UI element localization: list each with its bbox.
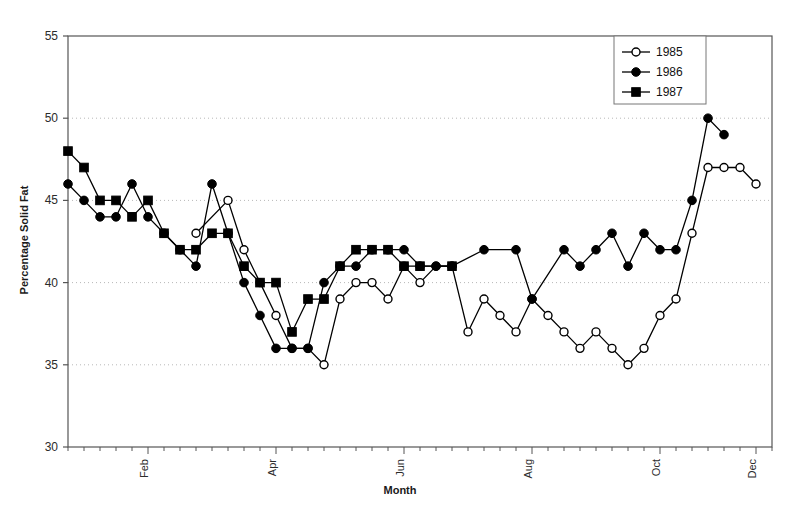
marker-filled-square (416, 262, 425, 271)
line-chart: 303540455055 FebAprJunAugOctDec 19851986… (0, 0, 798, 524)
legend-label-1987: 1987 (656, 85, 683, 99)
marker-filled-circle (560, 245, 569, 254)
marker-open-circle (320, 361, 328, 369)
y-tick-label: 40 (45, 276, 59, 290)
marker-filled-square (240, 262, 249, 271)
marker-filled-square (224, 229, 233, 238)
marker-open-circle (480, 295, 488, 303)
marker-filled-square (208, 229, 217, 238)
marker-open-circle (416, 279, 424, 287)
marker-filled-square (80, 163, 89, 172)
marker-filled-circle (304, 344, 313, 353)
marker-open-circle (624, 361, 632, 369)
marker-filled-square (632, 88, 641, 97)
marker-open-circle (656, 311, 664, 319)
x-tick-label-jun: Jun (394, 459, 406, 477)
chart-page: 303540455055 FebAprJunAugOctDec 19851986… (0, 0, 798, 524)
marker-filled-circle (624, 262, 633, 271)
marker-open-circle (464, 328, 472, 336)
marker-filled-circle (512, 245, 521, 254)
marker-filled-circle (720, 130, 729, 139)
marker-open-circle (224, 196, 232, 204)
marker-open-circle (240, 246, 248, 254)
marker-filled-circle (192, 262, 201, 271)
marker-open-circle (384, 295, 392, 303)
marker-open-circle (752, 180, 760, 188)
marker-filled-square (400, 262, 409, 271)
marker-filled-circle (256, 311, 265, 320)
marker-open-circle (352, 279, 360, 287)
marker-filled-circle (576, 262, 585, 271)
marker-filled-circle (352, 262, 361, 271)
marker-filled-circle (288, 344, 297, 353)
x-tick-label-feb: Feb (138, 459, 150, 478)
marker-filled-circle (672, 245, 681, 254)
x-tick-label-oct: Oct (650, 459, 662, 476)
marker-filled-circle (240, 278, 249, 287)
marker-filled-square (448, 262, 457, 271)
marker-filled-square (176, 245, 185, 254)
marker-filled-circle (704, 114, 713, 123)
marker-filled-circle (128, 180, 137, 189)
marker-open-circle (272, 311, 280, 319)
y-tick-label: 45 (45, 193, 59, 207)
marker-filled-square (96, 196, 105, 205)
marker-filled-circle (320, 278, 329, 287)
marker-open-circle (720, 164, 728, 172)
marker-open-circle (672, 295, 680, 303)
marker-filled-square (256, 278, 265, 287)
marker-open-circle (368, 279, 376, 287)
marker-filled-circle (528, 295, 537, 304)
marker-filled-circle (688, 196, 697, 205)
marker-open-circle (632, 48, 640, 56)
marker-filled-circle (656, 245, 665, 254)
marker-filled-circle (144, 213, 153, 222)
x-tick-label-aug: Aug (522, 459, 534, 479)
y-tick-label: 50 (45, 111, 59, 125)
marker-open-circle (608, 344, 616, 352)
marker-filled-circle (400, 245, 409, 254)
marker-filled-square (64, 147, 73, 156)
marker-filled-square (288, 328, 297, 337)
marker-open-circle (560, 328, 568, 336)
marker-open-circle (704, 164, 712, 172)
marker-open-circle (688, 229, 696, 237)
marker-filled-circle (272, 344, 281, 353)
marker-filled-square (368, 245, 377, 254)
marker-filled-square (320, 295, 329, 304)
marker-filled-square (128, 213, 137, 222)
marker-filled-circle (64, 180, 73, 189)
marker-open-circle (512, 328, 520, 336)
marker-open-circle (192, 229, 200, 237)
marker-open-circle (496, 311, 504, 319)
marker-filled-circle (96, 213, 105, 222)
marker-filled-square (384, 245, 393, 254)
x-axis-title: Month (384, 484, 417, 496)
marker-filled-square (144, 196, 153, 205)
marker-filled-square (272, 278, 281, 287)
chart-legend: 198519861987 (614, 36, 706, 104)
x-tick-label-apr: Apr (266, 459, 278, 476)
legend-label-1985: 1985 (656, 45, 683, 59)
legend-label-1986: 1986 (656, 65, 683, 79)
marker-filled-circle (632, 68, 641, 77)
marker-open-circle (736, 164, 744, 172)
marker-open-circle (336, 295, 344, 303)
marker-filled-square (112, 196, 121, 205)
marker-filled-square (192, 245, 201, 254)
y-tick-label: 35 (45, 358, 59, 372)
marker-filled-square (160, 229, 169, 238)
marker-filled-circle (592, 245, 601, 254)
marker-filled-circle (112, 213, 121, 222)
marker-open-circle (544, 311, 552, 319)
y-tick-label: 55 (45, 29, 59, 43)
marker-filled-circle (208, 180, 217, 189)
marker-filled-circle (80, 196, 89, 205)
marker-filled-circle (640, 229, 649, 238)
y-tick-label: 30 (45, 440, 59, 454)
marker-filled-square (336, 262, 345, 271)
x-tick-label-dec: Dec (746, 459, 758, 479)
marker-filled-circle (480, 245, 489, 254)
marker-filled-circle (608, 229, 617, 238)
marker-filled-square (304, 295, 313, 304)
